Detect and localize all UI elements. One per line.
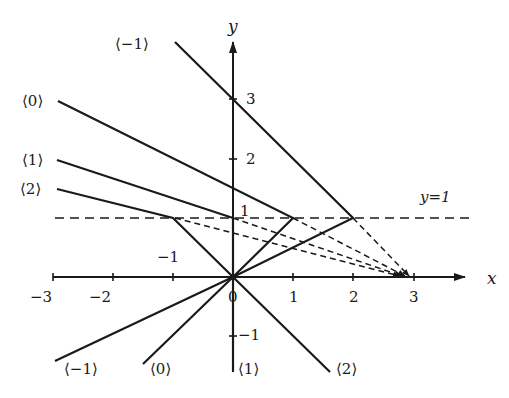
curve-bottom-label-k0: ⟨0⟩	[150, 362, 171, 377]
y-tick-label: 1	[240, 204, 250, 219]
curve-label-k2: ⟨2⟩	[20, 182, 41, 197]
x-tick-label: 1	[289, 290, 299, 305]
x-tick-label: −3	[30, 290, 52, 305]
curve-k1	[57, 160, 233, 371]
x-tick-label: −1	[157, 250, 179, 265]
x-axis-label: x	[487, 270, 497, 287]
curve-bottom-label-k2: ⟨2⟩	[336, 362, 357, 377]
y-tick-label: 2	[246, 152, 256, 167]
curve-bottom-label-k-minus-1: ⟨−1⟩	[64, 362, 98, 377]
y-tick-label: −1	[238, 328, 260, 343]
curve-label-k0: ⟨0⟩	[22, 94, 43, 109]
curve-label-k-minus-1: ⟨−1⟩	[115, 37, 149, 52]
curve-bottom-label-k1: ⟨1⟩	[238, 362, 259, 377]
y-tick-label: 3	[246, 92, 256, 107]
guide-line-label: y=1	[420, 190, 451, 205]
x-tick-label: −2	[89, 290, 111, 305]
x-tick-label: 0	[228, 290, 238, 305]
x-tick-label: 3	[409, 290, 419, 305]
curve-k0	[58, 101, 293, 364]
curve-label-k1: ⟨1⟩	[22, 153, 43, 168]
curve-k-minus-1	[55, 42, 353, 361]
y-axis-label: y	[228, 18, 238, 35]
x-tick-label: 2	[349, 290, 359, 305]
origin-point	[230, 274, 236, 280]
x-axis	[53, 273, 465, 281]
